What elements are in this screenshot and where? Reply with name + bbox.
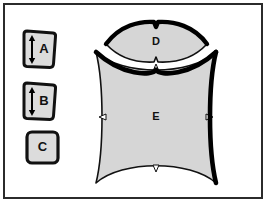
tile-a[interactable]: A — [24, 31, 56, 68]
tile-a-label: A — [39, 41, 49, 56]
shape-diagram-figure: A B C D — [0, 0, 266, 202]
tile-b[interactable]: B — [24, 83, 56, 120]
tile-c[interactable]: C — [27, 132, 58, 163]
region-d[interactable]: D — [106, 22, 207, 62]
diagram-canvas: A B C D — [0, 0, 266, 202]
tile-b-label: B — [39, 93, 48, 108]
tile-c-label: C — [38, 139, 48, 154]
region-d-label: D — [152, 35, 160, 47]
region-e-label: E — [152, 110, 159, 122]
region-e[interactable]: E — [96, 52, 216, 183]
